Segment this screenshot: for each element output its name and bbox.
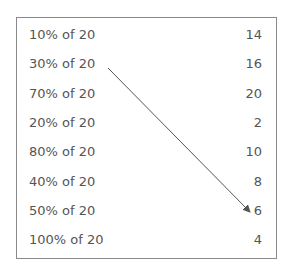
connection-arrow — [0, 0, 289, 270]
